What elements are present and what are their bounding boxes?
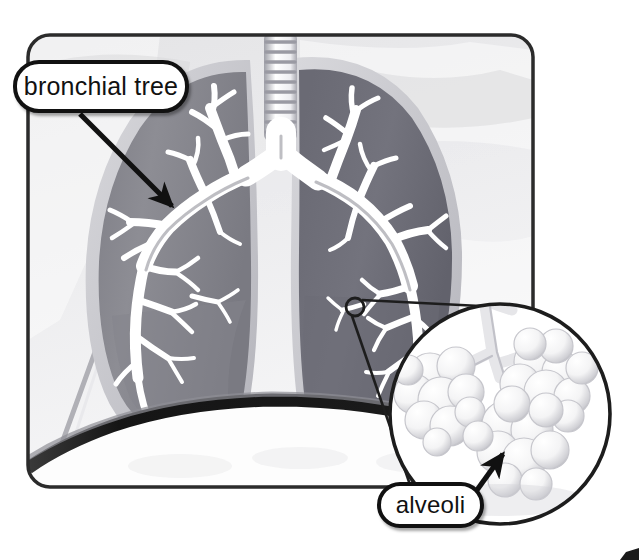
label-alveoli[interactable]: alveoli [377, 482, 484, 528]
label-bronchial-tree-text: bronchial tree [24, 74, 178, 99]
figure-canvas: bronchial tree alveoli [0, 0, 639, 560]
label-bronchial-tree[interactable]: bronchial tree [13, 60, 189, 113]
corner-wedge [620, 548, 639, 560]
label-alveoli-text: alveoli [396, 493, 465, 517]
